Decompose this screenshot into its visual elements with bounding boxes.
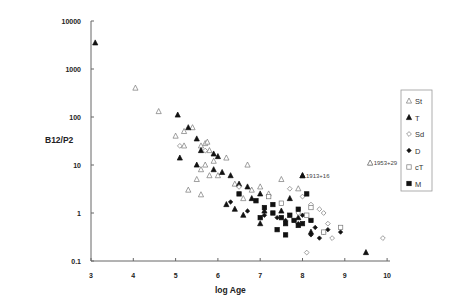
data-point-triangle-filled-icon xyxy=(220,169,225,174)
data-point-triangle-filled-icon xyxy=(241,212,246,217)
data-point-diamond-filled-icon xyxy=(326,227,330,231)
data-point-square-filled-icon xyxy=(296,207,300,211)
legend-label: M xyxy=(415,180,421,189)
data-point-triangle-open-icon xyxy=(173,133,178,138)
legend-square-open-icon xyxy=(407,165,411,169)
y-tick-label: 10 xyxy=(73,162,81,169)
y-tick-label: 0.1 xyxy=(71,258,81,265)
data-point-triangle-filled-icon xyxy=(245,184,250,189)
data-point-diamond-filled-icon xyxy=(300,213,304,217)
x-tick-label: 7 xyxy=(258,272,262,279)
data-point-square-filled-icon xyxy=(254,199,258,203)
x-tick-label: 3 xyxy=(89,272,93,279)
data-point-triangle-open-icon xyxy=(203,162,208,167)
data-point-square-filled-icon xyxy=(300,221,304,225)
x-tick-label: 8 xyxy=(301,272,305,279)
data-point-diamond-open-icon xyxy=(287,186,292,191)
data-point-triangle-filled-icon xyxy=(232,206,237,211)
data-point-triangle-filled-icon xyxy=(228,173,233,178)
data-point-diamond-filled-icon xyxy=(317,236,321,240)
legend-label: St xyxy=(415,97,423,106)
x-tick-label: 6 xyxy=(216,272,220,279)
data-point-square-open-icon xyxy=(266,194,270,198)
data-point-square-open-icon xyxy=(309,205,313,209)
data-point-triangle-open-icon xyxy=(258,184,263,189)
data-point-triangle-filled-icon xyxy=(93,40,98,45)
data-point-square-filled-icon xyxy=(271,202,275,206)
annotation-marker-icon xyxy=(368,160,373,165)
annotation-marker-icon xyxy=(300,173,305,178)
legend-square-filled-icon xyxy=(407,181,411,185)
legend-label: Sd xyxy=(415,130,424,139)
data-point-triangle-filled-icon xyxy=(194,162,199,167)
data-point-triangle-open-icon xyxy=(207,173,212,178)
data-point-triangle-filled-icon xyxy=(177,155,182,160)
data-point-diamond-filled-icon xyxy=(228,200,232,204)
data-point-square-open-icon xyxy=(338,225,342,229)
x-tick-label: 9 xyxy=(343,272,347,279)
data-point-square-filled-icon xyxy=(237,192,241,196)
data-point-square-filled-icon xyxy=(283,233,287,237)
legend-label: T xyxy=(415,114,420,123)
data-point-square-open-icon xyxy=(279,201,283,205)
data-point-diamond-open-icon xyxy=(330,236,335,241)
data-point-triangle-open-icon xyxy=(224,155,229,160)
data-point-triangle-filled-icon xyxy=(363,250,368,255)
data-point-square-filled-icon xyxy=(283,221,287,225)
data-point-triangle-filled-icon xyxy=(287,196,292,201)
data-point-diamond-open-icon xyxy=(325,221,330,226)
data-point-square-filled-icon xyxy=(292,218,296,222)
x-tick-label: 10 xyxy=(383,272,391,279)
y-tick-label: 1000 xyxy=(65,66,81,73)
data-point-triangle-open-icon xyxy=(198,192,203,197)
data-point-square-filled-icon xyxy=(262,205,266,209)
data-point-triangle-filled-icon xyxy=(224,202,229,207)
data-point-triangle-filled-icon xyxy=(186,125,191,130)
data-point-square-filled-icon xyxy=(275,227,279,231)
x-tick-label: 4 xyxy=(131,272,135,279)
data-point-diamond-filled-icon xyxy=(275,215,279,219)
data-point-triangle-filled-icon xyxy=(211,167,216,172)
data-points xyxy=(93,40,386,255)
data-point-diamond-filled-icon xyxy=(313,225,317,229)
x-tick-label: 5 xyxy=(174,272,178,279)
data-point-square-filled-icon xyxy=(305,192,309,196)
data-point-square-open-icon xyxy=(305,213,309,217)
data-point-square-filled-icon xyxy=(271,211,275,215)
scatter-chart: 0.1110100100010000 345678910 B12/P2 log … xyxy=(0,0,451,302)
data-point-diamond-open-icon xyxy=(300,194,305,199)
data-point-square-filled-icon xyxy=(279,215,283,219)
y-tick-label: 100 xyxy=(69,114,81,121)
annotation-label: 1913+16 xyxy=(306,173,330,179)
y-axis-title: B12/P2 xyxy=(45,135,74,145)
series-sd xyxy=(177,143,385,254)
data-point-square-filled-icon xyxy=(309,218,313,222)
data-point-triangle-open-icon xyxy=(186,187,191,192)
data-point-diamond-filled-icon xyxy=(338,230,342,234)
data-point-triangle-open-icon xyxy=(194,176,199,181)
annotations: 1913+161953+29 xyxy=(300,160,398,179)
data-point-diamond-open-icon xyxy=(321,211,326,216)
annotation-label: 1953+29 xyxy=(374,160,398,166)
data-point-triangle-open-icon xyxy=(245,162,250,167)
data-point-triangle-filled-icon xyxy=(175,112,180,117)
data-point-triangle-filled-icon xyxy=(279,208,284,213)
data-point-square-filled-icon xyxy=(296,223,300,227)
data-point-triangle-filled-icon xyxy=(194,136,199,141)
data-point-triangle-open-icon xyxy=(156,109,161,114)
data-point-triangle-filled-icon xyxy=(258,191,263,196)
data-point-diamond-filled-icon xyxy=(262,213,266,217)
data-point-triangle-open-icon xyxy=(133,85,138,90)
data-point-diamond-open-icon xyxy=(380,236,385,241)
series-st xyxy=(133,85,373,201)
legend-label: cT xyxy=(415,163,424,172)
data-point-triangle-filled-icon xyxy=(258,221,263,226)
data-point-diamond-open-icon xyxy=(304,250,309,255)
data-point-triangle-open-icon xyxy=(279,176,284,181)
data-point-triangle-open-icon xyxy=(296,186,301,191)
data-point-diamond-filled-icon xyxy=(245,209,249,213)
y-tick-label: 1 xyxy=(77,210,81,217)
data-point-square-filled-icon xyxy=(258,215,262,219)
data-point-square-open-icon xyxy=(321,230,325,234)
x-axis-title: log Age xyxy=(215,285,246,295)
